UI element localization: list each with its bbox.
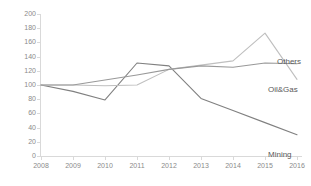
series-label-mining: Mining bbox=[268, 150, 292, 159]
line-chart: 020406080100120140160180200 200820092010… bbox=[0, 0, 311, 186]
plot-area bbox=[0, 0, 311, 186]
series-label-others: Others bbox=[277, 57, 301, 66]
series-line-oil-gas bbox=[41, 33, 297, 86]
series-line-mining bbox=[41, 63, 297, 135]
series-label-oil-gas: Oil&Gas bbox=[268, 85, 298, 94]
